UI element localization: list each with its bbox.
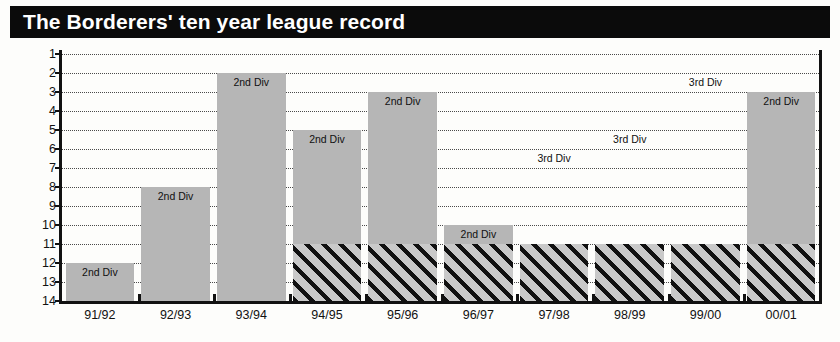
x-axis-tick-label: 96/97: [463, 308, 494, 322]
x-axis-tick-label: 98/99: [614, 308, 645, 322]
chart-figure: The Borderers' ten year league record 12…: [0, 0, 840, 342]
bar-division-label: 2nd Div: [461, 229, 497, 240]
x-axis-tick-label: 92/93: [160, 308, 191, 322]
bar-group[interactable]: [368, 46, 437, 302]
bar-group[interactable]: [293, 46, 362, 302]
bar-division-label: 3rd Div: [537, 153, 570, 164]
bar-group[interactable]: [747, 46, 816, 302]
plot-area: 1234567891011121314 2nd Div2nd Div2nd Di…: [0, 46, 840, 342]
bar-segment-solid[interactable]: [368, 92, 437, 244]
bar-segment-hatched[interactable]: [368, 244, 437, 301]
bar-segment-solid[interactable]: [293, 130, 362, 244]
chart-title-bar: The Borderers' ten year league record: [10, 6, 830, 38]
bar-group[interactable]: [66, 46, 135, 302]
bar-group[interactable]: [444, 46, 513, 302]
bar-segment-hatched[interactable]: [671, 244, 740, 301]
bar-segment-solid[interactable]: [747, 92, 816, 244]
bar-segment-hatched[interactable]: [520, 244, 589, 301]
x-axis-tick-mark: [213, 294, 216, 304]
x-axis-tick-label: 94/95: [311, 308, 342, 322]
x-axis-tick-label: 91/92: [84, 308, 115, 322]
bar-group[interactable]: [520, 46, 589, 302]
bar-division-label: 2nd Div: [233, 77, 269, 88]
x-axis-tick-mark: [592, 294, 595, 304]
bar-division-label: 2nd Div: [309, 134, 345, 145]
x-axis-tick-label: 99/00: [690, 308, 721, 322]
bar-division-label: 3rd Div: [689, 77, 722, 88]
x-axis-tick-mark: [743, 294, 746, 304]
x-axis-tick-label: 97/98: [538, 308, 569, 322]
right-axis-spine: [819, 50, 822, 304]
x-axis: 91/9292/9393/9494/9595/9696/9797/9898/99…: [0, 308, 840, 330]
x-axis-tick-label: 00/01: [766, 308, 797, 322]
bar-group[interactable]: [595, 46, 664, 302]
bar-group[interactable]: [141, 46, 210, 302]
x-axis-tick-label: 93/94: [236, 308, 267, 322]
x-axis-tick-mark: [365, 294, 368, 304]
bar-division-label: 2nd Div: [158, 191, 194, 202]
bar-division-label: 2nd Div: [763, 96, 799, 107]
x-axis-tick-label: 95/96: [387, 308, 418, 322]
x-axis-tick-mark: [516, 294, 519, 304]
bar-division-label: 3rd Div: [613, 134, 646, 145]
bar-division-label: 2nd Div: [385, 96, 421, 107]
bar-segment-solid[interactable]: [141, 187, 210, 301]
x-axis-tick-mark: [289, 294, 292, 304]
bar-segment-hatched[interactable]: [595, 244, 664, 301]
page-title: The Borderers' ten year league record: [10, 10, 405, 34]
bars-layer: 2nd Div2nd Div2nd Div2nd Div2nd Div2nd D…: [0, 46, 840, 342]
x-axis-tick-mark: [441, 294, 444, 304]
bar-segment-hatched[interactable]: [747, 244, 816, 301]
x-axis-tick-mark: [668, 294, 671, 304]
bar-segment-hatched[interactable]: [293, 244, 362, 301]
bar-segment-solid[interactable]: [217, 73, 286, 301]
bar-segment-hatched[interactable]: [444, 244, 513, 301]
x-axis-tick-mark: [138, 294, 141, 304]
bar-division-label: 2nd Div: [82, 267, 118, 278]
